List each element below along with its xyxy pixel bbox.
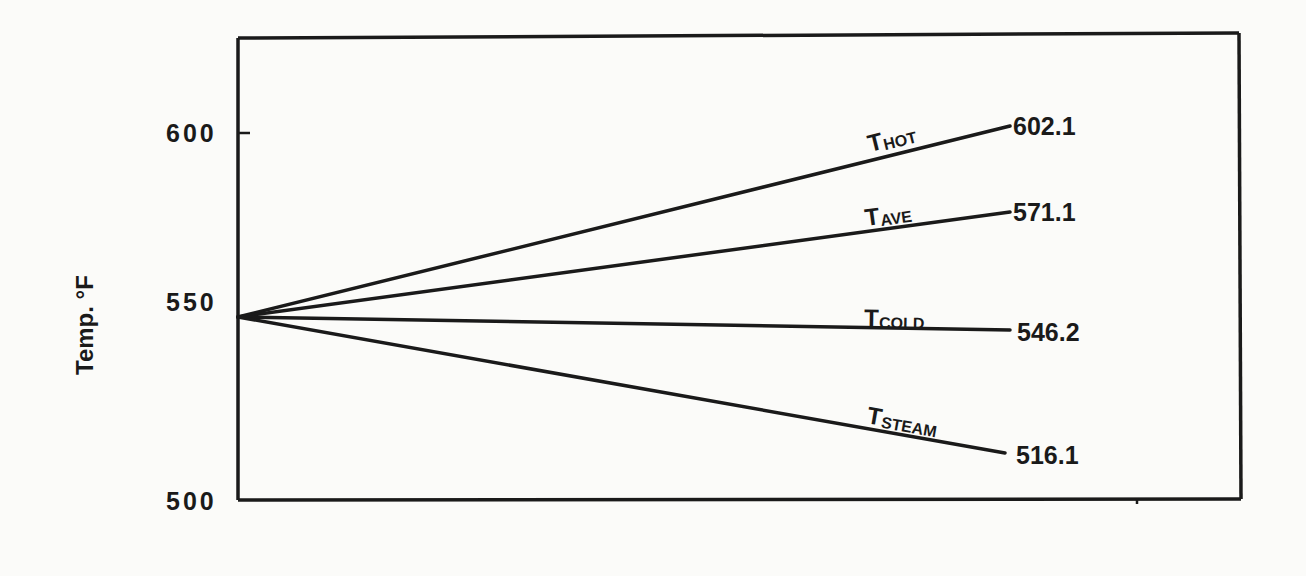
series-label-t-cold: T COLD bbox=[864, 304, 925, 332]
line-t-steam bbox=[238, 317, 1005, 453]
svg-text:T: T bbox=[863, 202, 882, 231]
ytick-label-550: 550 bbox=[166, 288, 217, 316]
svg-text:COLD: COLD bbox=[879, 314, 925, 332]
chart: 600 550 500 Temp. °F 602.1 571.1 546.2 5… bbox=[0, 0, 1306, 576]
ytick-label-600: 600 bbox=[166, 119, 217, 147]
line-t-ave bbox=[238, 212, 1010, 317]
svg-text:T: T bbox=[864, 304, 879, 331]
x-axis bbox=[238, 499, 1241, 500]
series-label-t-steam: T STEAM bbox=[865, 401, 940, 440]
plot-frame bbox=[238, 33, 1241, 500]
end-label-t-hot: 602.1 bbox=[1013, 112, 1076, 140]
end-label-t-steam: 516.1 bbox=[1016, 441, 1079, 469]
end-label-t-ave: 571.1 bbox=[1013, 198, 1076, 226]
series-lines bbox=[238, 126, 1010, 453]
ytick-label-500: 500 bbox=[166, 487, 217, 515]
end-label-t-cold: 546.2 bbox=[1017, 318, 1080, 346]
frame-right bbox=[1239, 33, 1241, 499]
y-axis-title: Temp. °F bbox=[71, 275, 98, 375]
frame-top bbox=[238, 33, 1239, 38]
